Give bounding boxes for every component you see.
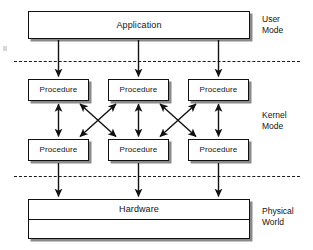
separator-kernel-physical xyxy=(14,176,300,177)
arrow-procedure-diagonal-3 xyxy=(160,104,196,137)
procedure-label: Procedure xyxy=(40,146,78,154)
zone-label-kernel-mode: Kernel Mode xyxy=(262,110,287,132)
application-box[interactable]: Application xyxy=(28,11,250,39)
hardware-label: Hardware xyxy=(119,205,159,214)
zone-label-user-mode: User Mode xyxy=(262,14,283,36)
procedure-box-top-2[interactable]: Procedure xyxy=(108,79,169,101)
scan-artifact xyxy=(3,46,7,51)
procedure-label: Procedure xyxy=(120,86,158,94)
procedure-label: Procedure xyxy=(120,146,158,154)
hardware-box[interactable]: Hardware xyxy=(28,199,250,239)
procedure-box-bottom-3[interactable]: Procedure xyxy=(188,139,249,161)
procedure-label: Procedure xyxy=(200,146,238,154)
separator-user-kernel xyxy=(14,61,300,62)
arrow-procedure-diagonal-4 xyxy=(160,104,196,137)
procedure-box-top-3[interactable]: Procedure xyxy=(188,79,249,101)
zone-label-physical-world: Physical World xyxy=(262,206,294,228)
hardware-top-compartment: Hardware xyxy=(29,200,249,220)
hardware-bottom-compartment xyxy=(29,219,249,238)
procedure-box-bottom-2[interactable]: Procedure xyxy=(108,139,169,161)
procedure-box-bottom-1[interactable]: Procedure xyxy=(28,139,89,161)
arrow-procedure-diagonal-1 xyxy=(80,104,116,137)
procedure-box-top-1[interactable]: Procedure xyxy=(28,79,89,101)
application-label: Application xyxy=(116,21,161,30)
diagram-canvas: Application Procedure Procedure Procedur… xyxy=(0,0,313,250)
arrow-procedure-diagonal-2 xyxy=(80,104,116,137)
procedure-label: Procedure xyxy=(40,86,78,94)
procedure-label: Procedure xyxy=(200,86,238,94)
